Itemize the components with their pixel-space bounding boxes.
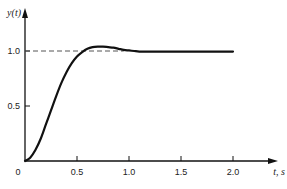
- axis-labels: 00.51.01.52.00.51.0y(t)t, s: [6, 7, 285, 177]
- step-response-chart: 00.51.01.52.00.51.0y(t)t, s: [0, 0, 287, 189]
- y-axis-arrow-icon: [22, 8, 28, 18]
- y-tick-label: 0.5: [7, 101, 20, 111]
- x-tick-label: 0.5: [71, 167, 84, 177]
- step-response-line: [25, 47, 233, 161]
- x-tick-label: 2.0: [227, 167, 240, 177]
- x-tick-label: 0: [15, 167, 20, 177]
- y-tick-label: 1.0: [7, 46, 20, 56]
- response-curve: [25, 47, 233, 161]
- x-tick-label: 1.0: [123, 167, 136, 177]
- x-axis-label: t, s: [273, 166, 285, 177]
- x-tick-label: 1.5: [175, 167, 188, 177]
- y-axis-label: y(t): [6, 7, 22, 19]
- x-axis-arrow-icon: [268, 158, 278, 164]
